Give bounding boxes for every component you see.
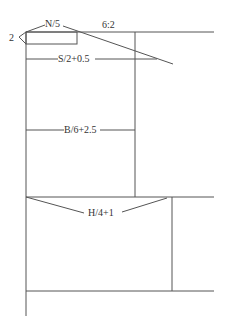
neck-leader-line [26, 25, 45, 32]
neck-rectangle [26, 32, 77, 44]
back-label: B/6+2.5 [64, 124, 97, 135]
hip-leader-left [26, 197, 84, 213]
corner-chevron [19, 32, 26, 44]
pattern-diagram: 2 N/5 6:2 S/2+0.5 B/6+2.5 H/4+1 [0, 0, 231, 321]
hip-leader-right [122, 198, 167, 212]
corner-label: 2 [9, 32, 14, 43]
slope-label: 6:2 [102, 19, 115, 30]
shoulder-label: S/2+0.5 [58, 53, 89, 64]
hip-label: H/4+1 [88, 207, 114, 218]
neck-label: N/5 [45, 18, 60, 29]
